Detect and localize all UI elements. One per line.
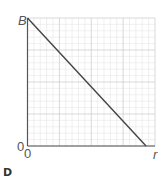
y-axis-label: B xyxy=(18,14,27,27)
x-axis-label: r xyxy=(153,148,157,161)
panel-label: D xyxy=(3,166,12,179)
x-origin-label: 0 xyxy=(24,147,31,160)
